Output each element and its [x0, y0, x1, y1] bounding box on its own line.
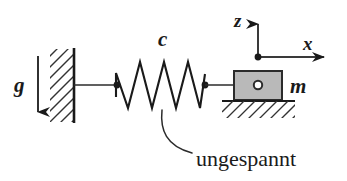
- ground-hatching: [222, 101, 297, 126]
- gravity-label: g: [13, 73, 25, 97]
- fixed-wall-group: [44, 44, 118, 124]
- x-axis-label: x: [302, 33, 313, 54]
- ground-support-group: [222, 101, 297, 126]
- spring-stiffness-label: c: [158, 27, 168, 51]
- diagram-svg: g c: [0, 0, 347, 181]
- annotation-label: ungespannt: [196, 146, 296, 171]
- mass-label: m: [290, 74, 306, 98]
- annotation-leader-line: [162, 110, 192, 153]
- annotation-group: ungespannt: [162, 110, 297, 171]
- gravity-arrow-group: g: [13, 56, 38, 112]
- z-axis-label: z: [233, 10, 242, 31]
- mechanics-diagram-canvas: g c: [0, 0, 347, 181]
- spring-coil-icon: [116, 62, 205, 108]
- axes-origin-dot: [255, 54, 262, 61]
- mass-block-group: m: [234, 71, 306, 100]
- coordinate-axes-group: z x: [233, 10, 324, 60]
- mass-pin-joint: [254, 81, 262, 89]
- spring-left-node: [114, 82, 121, 89]
